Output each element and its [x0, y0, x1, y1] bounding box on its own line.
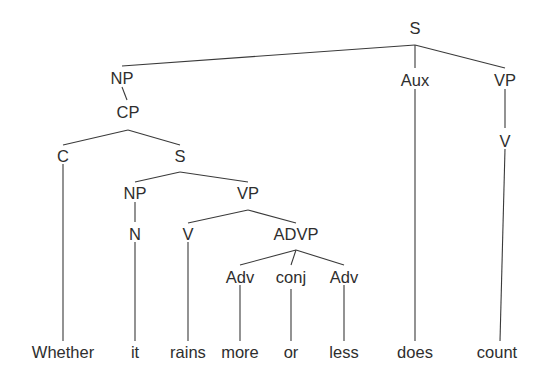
tree-node-np-np2: NP — [124, 184, 147, 202]
tree-edge-VP1-to-ADVP — [248, 210, 296, 223]
tree-edge-ADVP-to-Adv2 — [296, 250, 344, 265]
tree-leaf-or: or — [284, 343, 299, 361]
tree-node-conj-conj: conj — [276, 268, 306, 286]
tree-node-adv-adv1: Adv — [226, 268, 255, 286]
tree-node-vp-vp1: VP — [237, 184, 259, 202]
tree-node-s-s0: S — [409, 19, 420, 37]
tree-edge-ADVP-to-conj — [291, 250, 296, 265]
tree-edge-S0-to-VP2 — [415, 45, 505, 68]
tree-node-cp-cp: CP — [117, 103, 140, 121]
tree-leaf-less: less — [329, 343, 358, 361]
tree-edge-NP1-to-CP — [122, 87, 127, 100]
tree-leaf-does: does — [397, 343, 433, 361]
tree-edge-ADVP-to-Adv1 — [240, 250, 296, 265]
tree-leaf-count: count — [477, 343, 518, 361]
tree-node-np-np1: NP — [111, 69, 134, 87]
tree-node-c-c: C — [57, 147, 69, 165]
tree-leaf-rains: rains — [170, 343, 206, 361]
tree-leaf-group: Whetheritrainsmoreorlessdoescount — [32, 343, 518, 361]
tree-leaf-whether: Whether — [32, 343, 95, 361]
tree-edge-S1-to-VP1 — [180, 172, 248, 182]
tree-node-vp-vp2: VP — [494, 71, 516, 89]
tree-node-n-n: N — [129, 225, 141, 243]
tree-edge-S0-to-NP1 — [122, 45, 415, 66]
tree-leaf-it: it — [131, 343, 140, 361]
tree-edge-VP1-to-V1 — [188, 210, 248, 223]
syntax-tree-canvas: SNPCPCSNPVPNVADVPAdvconjAdvAuxVPV Whethe… — [0, 0, 546, 389]
tree-edge-CP-to-S1 — [128, 130, 180, 145]
tree-edge-V2-to-w8 — [500, 149, 505, 341]
tree-node-group: SNPCPCSNPVPNVADVPAdvconjAdvAuxVPV — [57, 19, 516, 286]
tree-edge-CP-to-C — [63, 130, 128, 145]
tree-node-adv-adv2: Adv — [330, 268, 359, 286]
tree-node-v-v1: V — [182, 225, 193, 243]
tree-node-v-v2: V — [499, 132, 510, 150]
tree-leaf-more: more — [221, 343, 259, 361]
tree-node-s-s1: S — [174, 147, 185, 165]
syntax-tree-figure: SNPCPCSNPVPNVADVPAdvconjAdvAuxVPV Whethe… — [0, 0, 546, 389]
tree-edge-S1-to-NP2 — [135, 172, 180, 182]
tree-node-advp-advp: ADVP — [274, 225, 319, 243]
tree-node-aux-aux: Aux — [401, 71, 430, 89]
